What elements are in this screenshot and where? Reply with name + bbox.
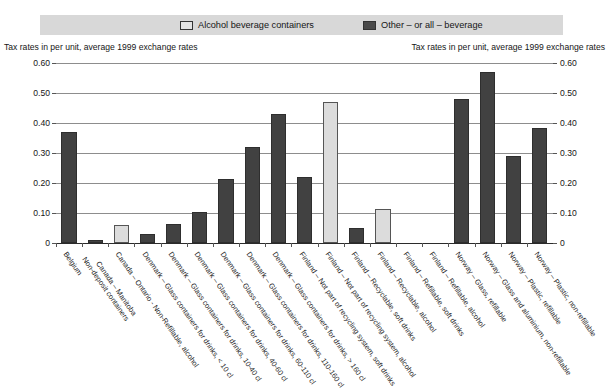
y-axis-tick-mark (553, 183, 557, 184)
legend-band: Alcohol beverage containers Other – or a… (40, 15, 563, 35)
y-axis-tick-mark (553, 153, 557, 154)
y-axis-tick-label: 0 (45, 238, 50, 248)
y-axis-tick-mark (553, 63, 557, 64)
gridline (56, 93, 553, 94)
y-axis-tick-mark (52, 123, 56, 124)
y-axis-tick-label: 0.20 (33, 178, 50, 188)
x-axis-tick-mark (187, 243, 188, 247)
bar (271, 114, 286, 243)
legend-entry-alcohol: Alcohol beverage containers (180, 15, 314, 35)
axis-caption-left: Tax rates in per unit, average 1999 exch… (4, 42, 197, 52)
x-axis-tick-mark (213, 243, 214, 247)
legend-label-other: Other – or all – beverage (381, 20, 483, 30)
x-axis-tick-mark (108, 243, 109, 247)
axis-caption-right: Tax rates in per unit, average 1999 exch… (412, 42, 605, 52)
bar (140, 234, 155, 243)
y-axis-tick-mark (553, 123, 557, 124)
legend-swatch-other-icon (363, 21, 376, 30)
bar (532, 128, 547, 244)
y-axis-tick-mark (553, 243, 557, 244)
y-axis-tick-label: 0.10 (560, 208, 577, 218)
y-axis-tick-label: 0.30 (560, 148, 577, 158)
bar (480, 72, 495, 243)
gridline (56, 63, 553, 64)
y-axis-tick-label: 0 (560, 238, 565, 248)
y-axis-tick-mark (52, 183, 56, 184)
y-axis-tick-label: 0.20 (560, 178, 577, 188)
x-axis-tick-mark (265, 243, 266, 247)
x-axis-tick-mark (82, 243, 83, 247)
bar (323, 102, 338, 243)
x-axis-tick-mark (134, 243, 135, 247)
x-axis-category-label: Denmark – Glass containers for drinks, 4… (192, 250, 289, 383)
y-axis-tick-label: 0.30 (33, 148, 50, 158)
y-axis-tick-label: 0.10 (33, 208, 50, 218)
bar (166, 224, 181, 244)
x-axis-tick-mark (291, 243, 292, 247)
x-axis-tick-mark (239, 243, 240, 247)
bar (245, 147, 260, 243)
y-axis-tick-mark (52, 63, 56, 64)
y-axis-tick-label: 0.40 (33, 118, 50, 128)
bar (375, 209, 390, 244)
x-axis-category-label: Belgium (62, 250, 85, 277)
y-axis-tick-mark (52, 213, 56, 214)
x-axis-category-label: Finland – Not part of recycling system, … (297, 250, 397, 387)
x-axis-tick-mark (344, 243, 345, 247)
y-axis-tick-mark (553, 213, 557, 214)
bar (192, 212, 207, 244)
gridline (56, 153, 553, 154)
x-axis-category-labels: BelgiumCanada – ManitobaNon-deposit cont… (56, 248, 553, 386)
legend-swatch-alcohol-icon (180, 21, 193, 30)
x-axis-tick-mark (396, 243, 397, 247)
x-axis-tick-mark (475, 243, 476, 247)
x-axis-category-label: Canada – ManitobaNon-deposit containers (80, 250, 138, 323)
x-axis-category-label: Denmark – Glass containers for drinks, 1… (245, 250, 346, 389)
y-axis-tick-label: 0.40 (560, 118, 577, 128)
bar (349, 228, 364, 243)
x-axis-tick-mark (448, 243, 449, 247)
bar (297, 177, 312, 243)
x-axis-tick-mark (527, 243, 528, 247)
y-axis-tick-mark (553, 93, 557, 94)
x-axis-tick-mark (161, 243, 162, 247)
x-axis-tick-mark (56, 243, 57, 247)
bar (218, 179, 233, 244)
bar (454, 99, 469, 243)
legend-entry-other: Other – or all – beverage (363, 15, 483, 35)
gridline (56, 123, 553, 124)
y-axis-tick-mark (52, 153, 56, 154)
x-axis-tick-mark (370, 243, 371, 247)
bar (114, 225, 129, 243)
y-axis-tick-label: 0.50 (33, 88, 50, 98)
x-axis-tick-mark (422, 243, 423, 247)
bar (61, 132, 76, 243)
bar (506, 156, 521, 243)
y-axis-tick-label: 0.60 (33, 58, 50, 68)
x-axis-tick-mark (501, 243, 502, 247)
legend-label-alcohol: Alcohol beverage containers (198, 20, 314, 30)
x-axis-tick-mark (318, 243, 319, 247)
x-axis-category-label: Norway – Glass, refillable (454, 250, 509, 324)
y-axis-tick-mark (52, 93, 56, 94)
x-axis-baseline (56, 243, 553, 244)
chart-plot-area: 00.100.200.300.400.500.60 00.100.200.300… (56, 63, 553, 243)
x-axis-category-label: Denmark – Glass containers for drinks, 6… (219, 250, 318, 386)
y-axis-tick-label: 0.50 (560, 88, 577, 98)
y-axis-tick-label: 0.60 (560, 58, 577, 68)
x-axis-category-label: Denmark – Glass containers for drinks, 1… (166, 250, 263, 383)
